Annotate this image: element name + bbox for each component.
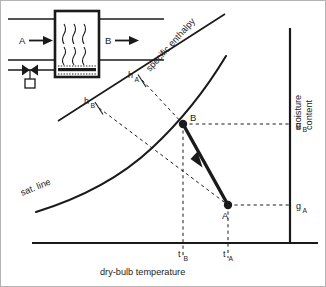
- figure-container: A B: [0, 0, 326, 287]
- schematic-outlet-label: B: [105, 35, 111, 46]
- humidifier-spray-icon: [55, 11, 99, 77]
- point-b-label: B: [190, 112, 196, 123]
- svg-text:content: content: [304, 99, 314, 130]
- svg-text:B: B: [91, 102, 96, 109]
- svg-text:B: B: [184, 255, 189, 262]
- y-axis-title: moisture content: [293, 95, 314, 130]
- svg-text:h: h: [84, 96, 89, 106]
- svg-text:moisture: moisture: [293, 95, 303, 130]
- svg-text:A: A: [135, 76, 140, 83]
- svg-text:A: A: [303, 207, 308, 214]
- svg-text:A: A: [229, 255, 234, 262]
- x-axis-title: dry-bulb temperature: [100, 267, 185, 277]
- psychrometric-figure: A B: [0, 0, 326, 287]
- svg-text:g: g: [296, 201, 301, 211]
- svg-text:h: h: [128, 70, 133, 80]
- schematic-inlet-label: A: [19, 35, 26, 46]
